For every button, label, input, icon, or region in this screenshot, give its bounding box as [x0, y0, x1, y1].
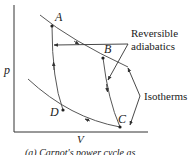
adiabatics-label-line2: adiabatics	[131, 41, 175, 52]
figure-caption: (a) Carnot's power cycle as	[25, 148, 135, 155]
state-label-c: C	[118, 113, 126, 125]
isotherms-label: Isotherms	[144, 91, 187, 102]
lower-isotherm	[28, 79, 120, 127]
state-point-a	[50, 24, 53, 27]
state-point-b	[101, 56, 104, 59]
isotherms-pointer	[128, 68, 140, 125]
state-label-d: D	[50, 106, 59, 118]
carnot-cycle-diagram	[0, 0, 192, 155]
state-point-d	[61, 108, 64, 111]
state-label-a: A	[55, 11, 62, 23]
adiabatics-label-line1: Reversible	[131, 28, 178, 39]
x-axis-label: V	[77, 134, 84, 145]
state-label-b: B	[104, 43, 111, 55]
y-axis-label: p	[4, 64, 10, 76]
